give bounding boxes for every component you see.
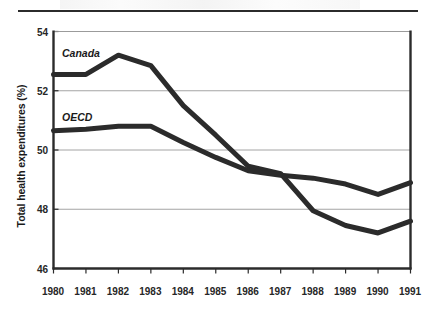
series-label-oecd: OECD bbox=[62, 111, 92, 123]
line-chart: Total health expenditures (%) 4648505254… bbox=[0, 0, 428, 313]
y-tick-label: 50 bbox=[26, 145, 48, 156]
series-lines bbox=[54, 55, 411, 233]
x-axis-tick-labels: 1980198119821983198419851986198719881989… bbox=[53, 286, 410, 306]
y-tick-label: 52 bbox=[26, 85, 48, 96]
series-label-canada: Canada bbox=[62, 47, 100, 59]
gridlines bbox=[54, 32, 411, 210]
x-tick-label: 1991 bbox=[390, 286, 428, 297]
y-tick-label: 46 bbox=[26, 263, 48, 274]
y-axis-tick-labels: 4648505254 bbox=[26, 0, 48, 313]
y-tick-label: 48 bbox=[26, 204, 48, 215]
y-tick-label: 54 bbox=[26, 26, 48, 37]
